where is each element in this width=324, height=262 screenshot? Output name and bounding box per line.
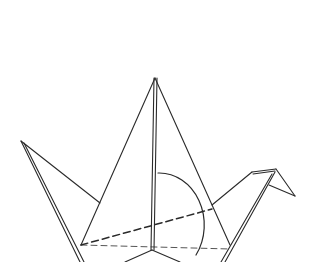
dashed-fold-upper xyxy=(81,209,212,245)
dashed-fold-lower xyxy=(81,245,230,249)
neck-and-head xyxy=(212,169,295,262)
left-wing xyxy=(21,141,100,262)
bottom-folds xyxy=(125,250,180,262)
origami-crane-drawing: Origami crane line drawing xyxy=(0,0,324,262)
crane-illustration xyxy=(0,0,324,262)
fold-arc xyxy=(158,173,204,255)
